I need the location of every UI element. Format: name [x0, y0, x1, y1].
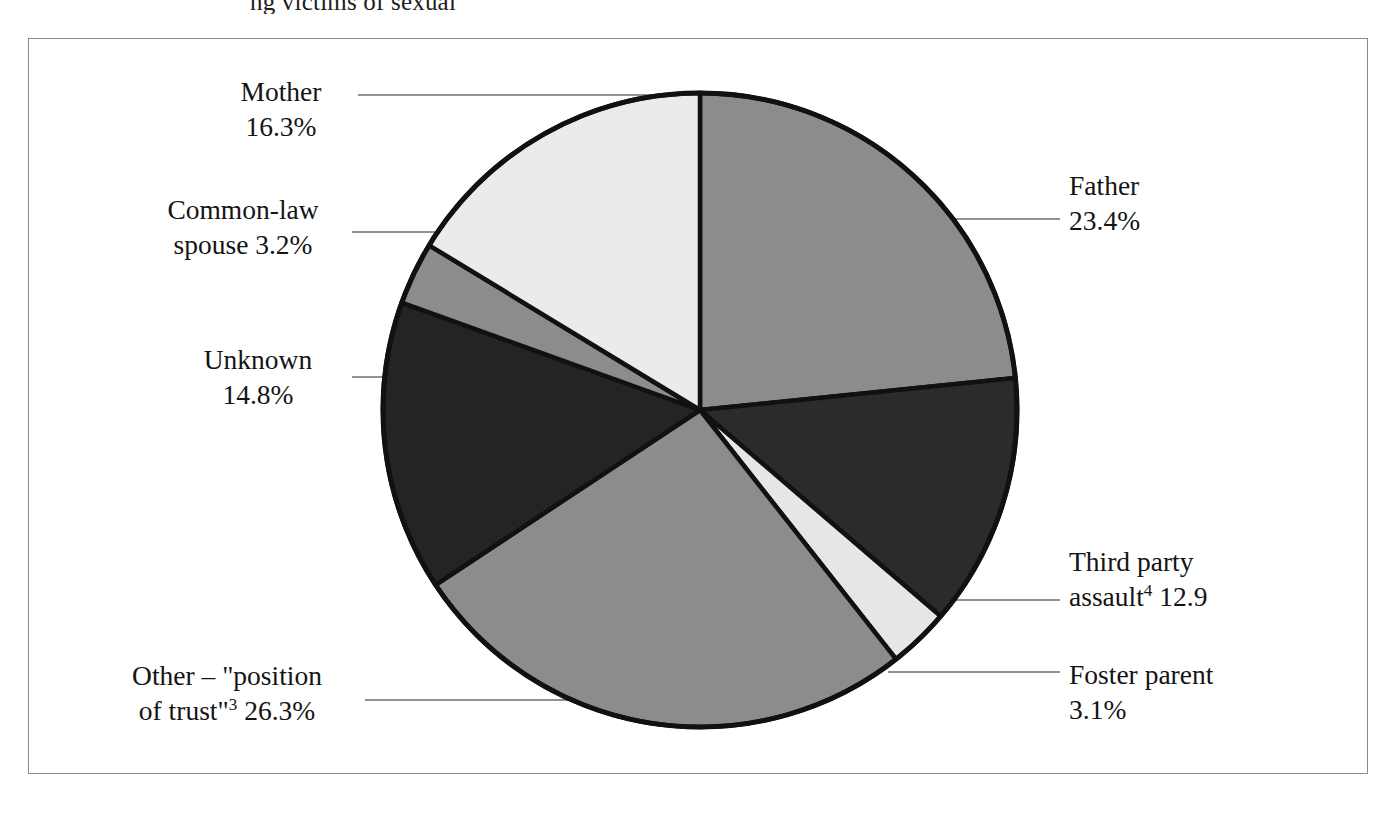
slice-label-other-value-post: 26.3%	[237, 695, 315, 726]
slice-label-mother-name: Mother	[206, 74, 356, 109]
pie-slice-group	[383, 93, 1017, 727]
pie-slice-father	[700, 93, 1015, 410]
slice-label-foster-parent-name: Foster parent	[1069, 657, 1319, 692]
slice-label-other-value-pre: of trust"	[139, 695, 229, 726]
slice-label-third-party-value: assault4 12.9	[1069, 579, 1319, 614]
slice-label-unknown-value: 14.8%	[168, 377, 348, 412]
slice-label-unknown: Unknown 14.8%	[168, 342, 348, 412]
slice-label-other-name: Other – "position	[92, 658, 362, 693]
slice-label-father-name: Father	[1069, 168, 1289, 203]
slice-label-mother: Mother 16.3%	[206, 74, 356, 144]
slice-label-third-party-value-pre: assault	[1069, 581, 1144, 612]
figure-root: ng victims of sexual Mother 16.3%	[0, 0, 1397, 818]
slice-label-other-position-of-trust: Other – "position of trust"3 26.3%	[92, 658, 362, 728]
slice-label-other-value: of trust"3 26.3%	[92, 693, 362, 728]
slice-label-common-law-spouse: Common-law spouse 3.2%	[138, 192, 348, 262]
slice-label-other-footnote-marker: 3	[229, 695, 238, 714]
slice-label-father: Father 23.4%	[1069, 168, 1289, 238]
slice-label-unknown-name: Unknown	[168, 342, 348, 377]
slice-label-foster-parent-value: 3.1%	[1069, 692, 1319, 727]
slice-label-third-party-assault: Third party assault4 12.9	[1069, 544, 1319, 614]
slice-label-third-party-value-post: 12.9	[1152, 581, 1207, 612]
slice-label-common-law-spouse-value: spouse 3.2%	[138, 227, 348, 262]
slice-label-third-party-name: Third party	[1069, 544, 1319, 579]
slice-label-mother-value: 16.3%	[206, 109, 356, 144]
slice-label-foster-parent: Foster parent 3.1%	[1069, 657, 1319, 727]
slice-label-common-law-spouse-name: Common-law	[138, 192, 348, 227]
slice-label-father-value: 23.4%	[1069, 203, 1289, 238]
